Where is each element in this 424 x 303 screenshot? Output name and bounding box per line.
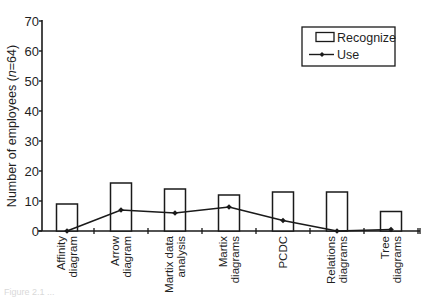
svg-text:diagrams: diagrams [229,236,241,284]
recognize-bar [327,192,348,231]
recognize-bar [57,204,78,231]
y-tick-label: 40 [25,104,39,119]
y-tick-label: 70 [25,14,39,29]
y-tick-label: 20 [25,164,39,179]
y-tick-label: 50 [25,74,39,89]
legend-recognize-label: Recognize [337,31,396,45]
y-axis-title: Number of employees (n=64) [5,45,19,207]
x-category-label: PCDC [277,236,289,269]
svg-text:diagrams: diagrams [391,236,403,284]
svg-text:diagram: diagram [67,236,79,278]
figure-caption: Figure 2.1 ... [4,287,55,297]
recognize-bar [219,195,240,231]
svg-text:Relations: Relations [325,236,337,284]
x-category-label: Relationsdiagrams [325,236,349,284]
y-tick-label: 60 [25,44,39,59]
svg-text:PCDC: PCDC [277,236,289,269]
chart: Number of employees (n=64) 0102030405060… [0,0,424,303]
svg-text:analysis: analysis [175,236,187,278]
x-category-label: Treediagrams [379,236,403,284]
svg-text:Martix: Martix [217,236,229,268]
legend-use-label: Use [337,48,359,62]
svg-text:Martix data: Martix data [163,235,175,292]
y-tick-label: 0 [32,224,39,239]
legend-recognize-swatch [316,33,334,42]
svg-text:Tree: Tree [379,236,391,259]
x-category-label: Martixdiagrams [217,236,241,284]
recognize-bar [111,183,132,231]
recognize-bar [165,189,186,231]
svg-text:diagrams: diagrams [337,236,349,284]
y-tick-label: 30 [25,134,39,149]
legend: RecognizeUse [302,27,396,66]
svg-text:Affinity: Affinity [55,236,67,271]
x-category-label: Arrowdiagram [109,235,133,277]
y-axis: 010203040506070 [25,14,42,239]
y-axis-title-text: Number of employees (n=64) [5,45,19,207]
svg-text:Arrow: Arrow [109,235,121,266]
recognize-bar [273,192,294,231]
x-category-label: Martix dataanalysis [163,235,187,292]
svg-text:diagram: diagram [121,236,133,278]
x-category-label: Affinitydiagram [55,236,79,278]
y-tick-label: 10 [25,194,39,209]
x-axis-category-labels: AffinitydiagramArrowdiagramMartix dataan… [55,235,403,293]
